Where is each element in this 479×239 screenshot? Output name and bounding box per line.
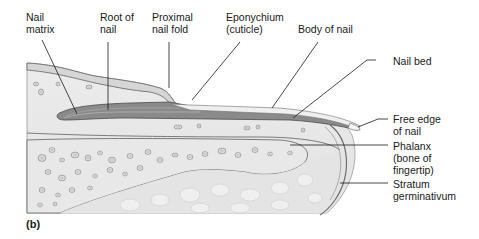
leader-free-edge xyxy=(358,119,388,127)
label-phalanx: Phalanx (bone of fingertip) xyxy=(393,140,434,176)
label-proximal-nail-fold: Proximal nail fold xyxy=(152,11,193,35)
label-stratum-germinativum: Stratum germinativum xyxy=(393,178,456,202)
leader-body-of-nail xyxy=(272,42,318,108)
leader-eponychium xyxy=(192,42,240,100)
label-body-of-nail: Body of nail xyxy=(298,23,353,35)
label-eponychium: Eponychium (cuticle) xyxy=(226,11,284,35)
label-nail-bed: Nail bed xyxy=(393,55,432,67)
label-free-edge: Free edge of nail xyxy=(393,113,441,137)
label-nail-matrix: Nail matrix xyxy=(26,11,55,35)
panel-label: (b) xyxy=(26,218,40,230)
label-root-of-nail: Root of nail xyxy=(100,11,134,35)
leader-nail-bed xyxy=(293,60,376,118)
